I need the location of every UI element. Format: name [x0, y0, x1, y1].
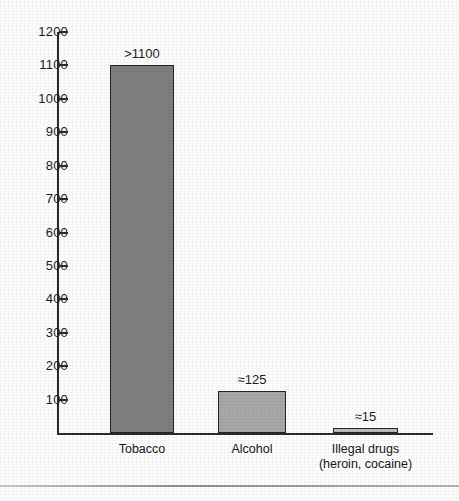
- y-tick-label: 400: [0, 292, 68, 305]
- y-tick-label: 100: [0, 393, 68, 406]
- footer-divider: [0, 485, 459, 487]
- y-tick-label: 500: [0, 259, 68, 272]
- y-tick-label: 900: [0, 125, 68, 138]
- category-label-3: Illegal drugs(heroin, cocaine): [288, 442, 443, 472]
- category-label-text: Alcohol: [232, 442, 273, 456]
- figure-caption: [0, 493, 459, 501]
- y-tick-mark: [59, 298, 68, 300]
- y-tick-mark: [59, 98, 68, 100]
- y-tick-label: 200: [0, 359, 68, 372]
- y-tick-mark: [59, 399, 68, 401]
- category-label-text: Illegal drugs: [332, 442, 399, 456]
- bar-chart: 120011001000900800700600500400300200100 …: [0, 0, 459, 470]
- y-tick-mark: [59, 365, 68, 367]
- chart-page: 120011001000900800700600500400300200100 …: [0, 0, 459, 501]
- bar-value-label: >1100: [80, 47, 204, 61]
- bar-value-label: ≈15: [303, 410, 428, 424]
- bar-alcohol: [218, 391, 286, 433]
- y-tick-label: 800: [0, 159, 68, 172]
- y-tick-mark: [59, 232, 68, 234]
- category-label-text: Tobacco: [119, 442, 166, 456]
- y-tick-label: 1200: [0, 25, 68, 38]
- y-tick-label: 300: [0, 326, 68, 339]
- y-tick-mark: [59, 165, 68, 167]
- y-tick-mark: [59, 265, 68, 267]
- bar-tobacco: [110, 65, 174, 433]
- y-tick-mark: [59, 64, 68, 66]
- y-tick-label: 1100: [0, 58, 68, 71]
- y-tick-mark: [59, 131, 68, 133]
- y-tick-mark: [59, 31, 68, 33]
- y-tick-mark: [59, 332, 68, 334]
- x-axis-line: [57, 433, 433, 435]
- y-tick-label: 1000: [0, 92, 68, 105]
- y-tick-mark: [59, 198, 68, 200]
- y-tick-label: 600: [0, 226, 68, 239]
- y-tick-label: 700: [0, 192, 68, 205]
- category-sublabel-text: (heroin, cocaine): [288, 457, 443, 472]
- bar-value-label: ≈125: [188, 373, 316, 387]
- bar-illegal-drugs: [333, 428, 398, 433]
